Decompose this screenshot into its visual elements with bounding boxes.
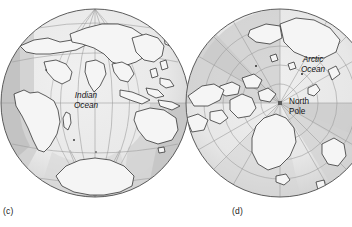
arctic-ocean-label-line2: Ocean [301, 65, 326, 74]
globe-north-pole: Arctic Ocean North Pole [190, 0, 352, 227]
north-pole-label-line2: Pole [289, 107, 306, 116]
north-pole-marker [278, 101, 282, 105]
figure-two-globes: Indian Ocean (c) [0, 0, 352, 227]
arctic-ocean-label-line1: Arctic [302, 55, 323, 64]
north-pole-label-line1: North [289, 97, 309, 106]
indian-ocean-label-line2: Ocean [74, 101, 99, 110]
globe-indian-ocean: Indian Ocean [0, 0, 190, 227]
indian-ocean-label: Indian Ocean [74, 91, 99, 110]
indian-ocean-label-line1: Indian [75, 91, 98, 100]
panel-d-globe: Arctic Ocean North Pole (d) [190, 0, 352, 227]
panel-c-globe: Indian Ocean (c) [0, 0, 190, 227]
arctic-ocean-label: Arctic Ocean [301, 55, 326, 74]
caption-panel-d: (d) [232, 206, 243, 216]
caption-panel-c: (c) [3, 206, 14, 216]
